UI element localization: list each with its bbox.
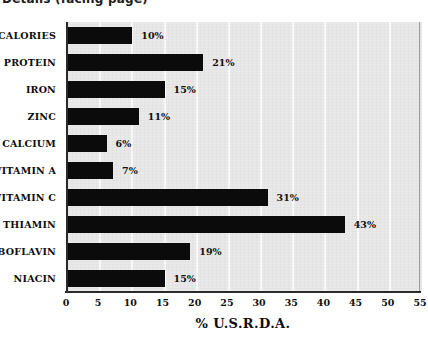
x-tick-35: 35	[285, 295, 298, 311]
x-axis-ticks: 0510152025303540455055	[0, 295, 428, 311]
x-tick-55: 55	[413, 295, 426, 311]
bar-value-label: 11%	[148, 108, 170, 125]
bar-vitamin-c	[68, 189, 268, 206]
category-label-vitamin-c: VITAMIN C	[0, 189, 56, 206]
bar-row: 31%	[68, 189, 422, 206]
x-tick-15: 15	[156, 295, 169, 311]
category-label-niacin: NIACIN	[14, 270, 56, 287]
x-tick-40: 40	[317, 295, 330, 311]
bar-value-label: 15%	[174, 270, 196, 287]
bar-row: 10%	[68, 27, 422, 44]
category-label-thiamin: THIAMIN	[3, 216, 56, 233]
bar-calcium	[68, 135, 107, 152]
category-label-zinc: ZINC	[28, 108, 56, 125]
bar-value-label: 6%	[116, 135, 132, 152]
bar-value-label: 15%	[174, 81, 196, 98]
bar-row: 6%	[68, 135, 422, 152]
category-label-calcium: CALCIUM	[2, 135, 56, 152]
bar-zinc	[68, 108, 139, 125]
x-axis-title: % U.S.R.D.A.	[66, 316, 420, 331]
bar-vitamin-a	[68, 162, 113, 179]
x-tick-5: 5	[95, 295, 102, 311]
x-tick-30: 30	[252, 295, 265, 311]
bar-row: 21%	[68, 54, 422, 71]
bar-row: 11%	[68, 108, 422, 125]
category-label-vitamin-a: VITAMIN A	[0, 162, 56, 179]
bar-niacin	[68, 270, 165, 287]
bar-row: 15%	[68, 270, 422, 287]
chart-page: Details (facing page) CALORIESPROTEINIRO…	[0, 0, 428, 344]
bar-value-label: 10%	[141, 27, 163, 44]
x-tick-25: 25	[220, 295, 233, 311]
category-label-iron: IRON	[26, 81, 56, 98]
bar-riboflavin	[68, 243, 190, 260]
x-tick-10: 10	[124, 295, 137, 311]
category-label-protein: PROTEIN	[4, 54, 56, 71]
bar-row: 19%	[68, 243, 422, 260]
bar-row: 7%	[68, 162, 422, 179]
x-tick-20: 20	[188, 295, 201, 311]
x-tick-45: 45	[349, 295, 362, 311]
bar-calories	[68, 27, 132, 44]
category-label-riboflavin: RIBOFLAVIN	[0, 243, 56, 260]
category-label-calories: CALORIES	[0, 27, 56, 44]
bar-iron	[68, 81, 165, 98]
bar-series: 10%21%15%11%6%7%31%43%19%15%	[68, 22, 422, 292]
bar-value-label: 19%	[199, 243, 221, 260]
category-axis-labels: CALORIESPROTEINIRONZINCCALCIUMVITAMIN AV…	[0, 22, 62, 292]
bar-value-label: 7%	[122, 162, 138, 179]
bar-thiamin	[68, 216, 345, 233]
bar-row: 43%	[68, 216, 422, 233]
x-tick-50: 50	[381, 295, 394, 311]
bar-value-label: 21%	[212, 54, 234, 71]
plot-area: 10%21%15%11%6%7%31%43%19%15%	[66, 22, 422, 292]
x-tick-0: 0	[63, 295, 70, 311]
bar-protein	[68, 54, 203, 71]
usrda-bar-chart: CALORIESPROTEINIRONZINCCALCIUMVITAMIN AV…	[0, 0, 428, 344]
bar-value-label: 31%	[277, 189, 299, 206]
bar-row: 15%	[68, 81, 422, 98]
bar-value-label: 43%	[354, 216, 376, 233]
